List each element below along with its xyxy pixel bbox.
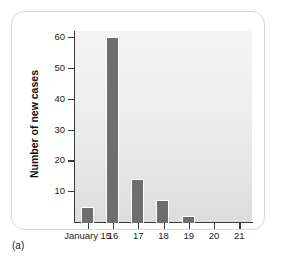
y-tick-label: 20 [40,155,65,165]
y-tick-60 [68,37,74,38]
figure-panel: Number of new cases 102030405060 January… [0,0,281,268]
x-tick [239,223,240,229]
bar [156,200,169,223]
y-tick-label: 40 [40,94,65,104]
y-tick-label: 50 [40,63,65,73]
y-tick-label-text: 20 [40,155,65,165]
x-tick [164,223,165,229]
chart-panel: Number of new cases 102030405060 January… [11,11,265,230]
y-tick-label-text: 60 [40,32,65,42]
y-axis-title: Number of new cases [28,49,40,199]
y-tick-label-text: 30 [40,125,65,135]
x-tick [214,223,215,229]
x-tick [189,223,190,229]
x-tick [113,223,114,229]
bar [182,216,195,223]
y-tick-label-text: 40 [40,94,65,104]
y-tick-30 [68,130,74,131]
y-tick-50 [68,68,74,69]
y-tick-label: 30 [40,125,65,135]
x-tick-label: 21 [204,231,274,241]
y-tick-label: 10 [40,186,65,196]
y-tick-label-text: 10 [40,186,65,196]
y-tick-label-text: 50 [40,63,65,73]
plot-area [75,31,252,222]
x-tick [138,223,139,229]
bar [131,179,144,223]
y-tick-40 [68,99,74,100]
y-tick-label: 60 [40,32,65,42]
x-tick [88,223,89,229]
y-tick-20 [68,160,74,161]
y-tick-10 [68,191,74,192]
y-axis-line [74,31,75,223]
bar [81,207,94,223]
figure-caption: (a) [12,240,24,251]
bar [106,37,119,223]
